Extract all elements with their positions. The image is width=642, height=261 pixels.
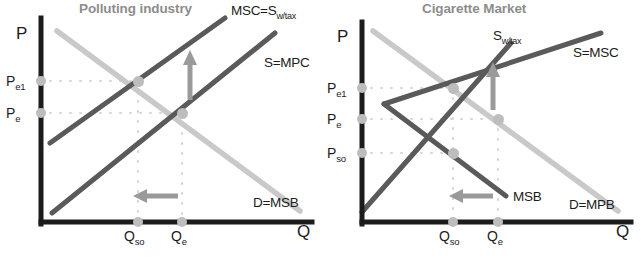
curve-label-d-msb: D=MSB <box>253 195 298 210</box>
arrow-quantity-shift-left <box>133 189 178 203</box>
price-label-pe-text: P <box>327 111 336 127</box>
quantity-label-qso-sub: so <box>135 236 145 247</box>
quantity-label-qso-text: Q <box>124 228 135 244</box>
arrow-supply-shift-up <box>183 50 197 100</box>
chart-title-polluting-industry: Polluting industry <box>79 1 192 16</box>
quantity-label-qe-text: Q <box>171 228 182 244</box>
price-label-pso: Pso <box>327 145 346 164</box>
x-axis-label-q: Q <box>297 222 310 242</box>
price-label-pe1: Pe1 <box>327 80 346 99</box>
cigarette-market-plot <box>321 0 642 261</box>
curve-label-msc: MSC=Sw/tax <box>231 3 296 21</box>
axis-markers <box>357 83 504 227</box>
marker-eq-market <box>177 108 188 119</box>
curve-s-wtax <box>362 43 511 212</box>
polluting-industry-plot <box>0 0 321 261</box>
chart-polluting-industry: Polluting industry P Q Pe1 Pe Qso Qe MSC… <box>0 0 321 261</box>
price-label-pe-text: P <box>6 105 15 121</box>
y-axis-label-p: P <box>337 27 348 47</box>
price-label-pso-text: P <box>327 145 336 161</box>
marker-eq-social <box>448 148 459 159</box>
quantity-label-qe-sub: e <box>182 236 187 247</box>
marker-pe1 <box>36 76 46 86</box>
quantity-label-qso-sub: so <box>450 236 460 247</box>
y-axis-label-p: P <box>16 24 27 44</box>
marker-qso <box>133 217 143 227</box>
figure-canvas: Polluting industry P Q Pe1 Pe Qso Qe MSC… <box>0 0 642 261</box>
curve-label-d-mpb: D=MPB <box>569 197 614 212</box>
curve-label-s-msc: S=MSC <box>573 45 618 60</box>
quantity-label-qe: Qe <box>487 228 503 247</box>
price-label-pe1-text: P <box>327 80 336 96</box>
price-label-pso-sub: so <box>336 153 346 164</box>
marker-pso <box>357 148 367 158</box>
price-label-pe1-text: P <box>6 73 15 89</box>
quantity-label-qso: Qso <box>439 228 459 247</box>
curve-label-msb: MSB <box>513 189 541 204</box>
marker-qe <box>493 217 503 227</box>
marker-pe <box>357 114 367 124</box>
marker-eq-market <box>493 114 504 125</box>
price-label-pe1-sub: e1 <box>336 88 346 99</box>
marker-pe1 <box>357 83 367 93</box>
curve-label-s-wtax: Sw/tax <box>493 28 521 46</box>
arrow-quantity-shift-left <box>449 189 493 203</box>
quantity-label-qso: Qso <box>124 228 144 247</box>
x-axis-label-q: Q <box>616 222 629 242</box>
curve-label-s-wtax-sub: w/tax <box>502 36 522 46</box>
curve-label-s-mpc: S=MPC <box>264 55 309 70</box>
price-label-pe-sub: e <box>15 113 20 124</box>
marker-qso <box>448 217 458 227</box>
chart-cigarette-market: Cigarette Market P Q Pe1 Pe Pso Qso Qe S… <box>321 0 642 261</box>
price-label-pe1-sub: e1 <box>15 81 25 92</box>
curve-label-msc-text: MSC=S <box>231 3 276 18</box>
price-label-pe-sub: e <box>336 119 341 130</box>
marker-eq-taxed <box>448 83 459 94</box>
marker-qe <box>177 217 187 227</box>
marker-pe <box>36 108 46 118</box>
curve-label-msc-sub: w/tax <box>276 11 296 21</box>
curve-label-s-wtax-text: S <box>493 28 502 43</box>
quantity-label-qe: Qe <box>171 228 187 247</box>
quantity-label-qe-text: Q <box>487 228 498 244</box>
chart-title-cigarette-market: Cigarette Market <box>422 1 526 16</box>
price-label-pe1: Pe1 <box>6 73 25 92</box>
price-label-pe: Pe <box>327 111 341 130</box>
quantity-label-qe-sub: e <box>498 236 503 247</box>
price-label-pe: Pe <box>6 105 20 124</box>
quantity-label-qso-text: Q <box>439 228 450 244</box>
marker-eq-social <box>133 76 144 87</box>
